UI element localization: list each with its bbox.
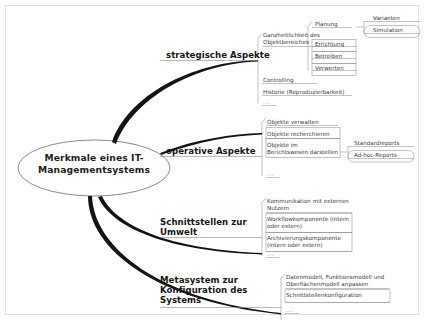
- branch-label-schnittstellen-umwelt[interactable]: Schnittstellen zur Umwelt: [160, 217, 256, 237]
- leaf-betreiben[interactable]: Betreiben: [315, 53, 342, 60]
- leaf-historie[interactable]: Historie (Reproduzierbarkeit): [263, 89, 344, 96]
- branch-label-operative-aspekte[interactable]: operative Aspekte: [166, 146, 256, 156]
- leaf-datenmodell-anpassen[interactable]: Datenmodell, Funktionsmodell und Oberflä…: [286, 274, 390, 287]
- leaf-dots-strategisch[interactable]: ...: [263, 99, 270, 106]
- bracket-schnittstellen: [262, 198, 266, 256]
- branch-label-strategische-aspekte[interactable]: strategische Aspekte: [166, 50, 270, 60]
- leaf-dots-schnittstellen[interactable]: ...: [267, 251, 274, 258]
- mindmap-canvas: Merkmale eines IT-Managementsystems stra…: [0, 0, 428, 335]
- leaf-objekte-recherchieren[interactable]: Objekte recherchieren: [267, 131, 330, 138]
- leaf-dots-operativ[interactable]: ...: [267, 171, 274, 178]
- leaf-archivierungskomponente[interactable]: Archivierungskomponente (intern oder ext…: [267, 235, 353, 248]
- leaf-errichtung[interactable]: Errichtung: [315, 41, 344, 48]
- leaf-verwerten[interactable]: Verwerten: [315, 65, 344, 72]
- bracket-operativ: [262, 118, 266, 176]
- leaf-objekte-berichtswesen[interactable]: Objekte im Berichtswesen darstellen: [267, 142, 339, 155]
- root-topic[interactable]: Merkmale eines IT-Managementsystems: [20, 152, 168, 176]
- leaf-varianten[interactable]: Varianten: [373, 15, 400, 22]
- leaf-adhoc-reports[interactable]: Ad-hoc-Reports: [354, 152, 397, 159]
- leaf-objekte-verwalten[interactable]: Objekte verwalten: [267, 119, 319, 126]
- bracket-strategisch: [258, 34, 262, 104]
- leaf-kommunikation-externe-nutzer[interactable]: Kommunikation mit externen Nutzern: [267, 198, 353, 211]
- leaf-schnittstellenkonfiguration[interactable]: Schnittstellenkonfiguration: [286, 292, 362, 299]
- leaf-planung[interactable]: Planung: [315, 21, 338, 28]
- branch-curve-strategisch: [112, 60, 258, 144]
- branch-label-metasystem[interactable]: Metasystem zur Konfiguration des Systems: [160, 275, 260, 305]
- bracket-metasystem: [281, 274, 285, 320]
- leaf-dots-metasystem[interactable]: ...: [286, 307, 293, 314]
- leaf-controlling[interactable]: Controlling: [263, 77, 294, 84]
- leaf-simulation[interactable]: Simulation: [373, 27, 403, 34]
- leaf-workflowkomponente[interactable]: Workflowkomponente (intern oder extern): [267, 216, 353, 229]
- leaf-standardreports[interactable]: Standardreports: [354, 140, 399, 147]
